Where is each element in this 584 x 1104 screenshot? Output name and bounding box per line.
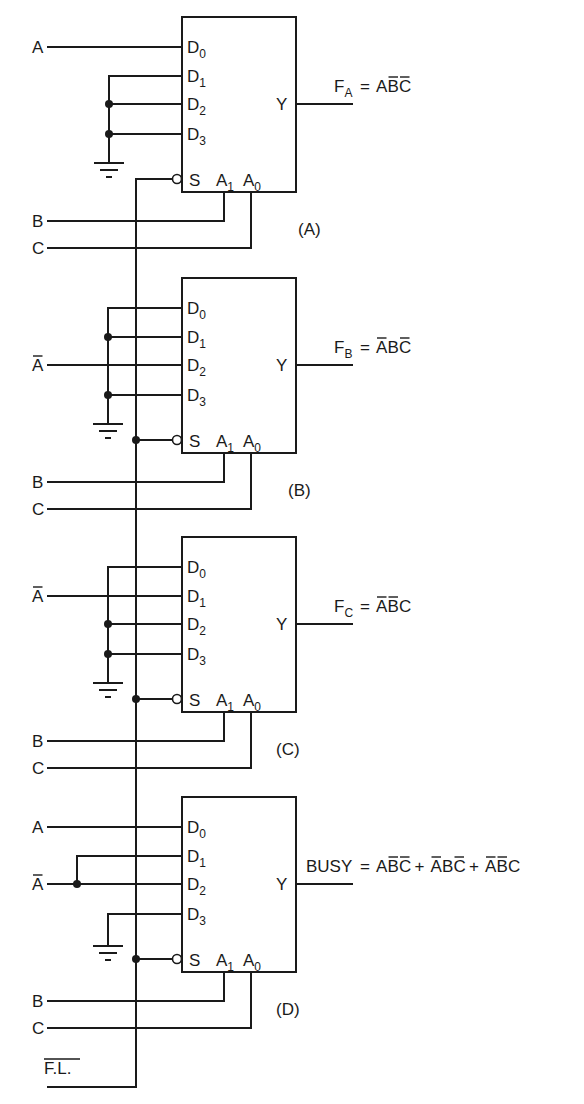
ground-icon (94, 424, 122, 438)
ground-icon (94, 683, 122, 697)
a-bar-label: A (32, 875, 44, 894)
literal-a: A (376, 77, 388, 96)
literal-a: A (485, 857, 497, 876)
junction-dot (105, 130, 113, 138)
mux-block-b: D0D1D2D3YSA1A0BC(B)AFB=ABC (32, 278, 411, 519)
junction-dot (73, 880, 81, 888)
literal-b: B (497, 857, 508, 876)
a-bar-label: A (32, 356, 44, 375)
b-label: B (32, 212, 43, 231)
junction-dot (104, 620, 112, 628)
equals-sign: = (360, 77, 370, 96)
literal-c: C (454, 857, 466, 876)
output-name: FC (334, 597, 353, 620)
output-expression: BUSY=ABC+ABC+ABC (306, 857, 520, 876)
active-low-bubble (173, 955, 182, 964)
literal-b: B (442, 857, 453, 876)
pin-label-y: Y (276, 615, 287, 634)
literal-b: B (388, 857, 399, 876)
junction-dot (104, 333, 112, 341)
equals-sign: = (360, 857, 370, 876)
literal-c: C (399, 597, 411, 616)
ground-icon (94, 946, 122, 960)
pin-label-y: Y (276, 356, 287, 375)
literal-b: B (388, 338, 399, 357)
plus-sign: + (415, 857, 425, 876)
c-label: C (32, 239, 44, 258)
mux-circuit-diagram: F.L.D0D1D2D3YSA1A0BC(A)AFA=ABCD0D1D2D3YS… (0, 0, 584, 1104)
mux-block-a: D0D1D2D3YSA1A0BC(A)AFA=ABC (32, 17, 411, 258)
active-low-bubble (173, 695, 182, 704)
literal-c: C (508, 857, 520, 876)
a-bar-label: A (32, 587, 44, 606)
junction-dot (105, 100, 113, 108)
fl-label: F.L. (44, 1059, 71, 1078)
a-label: A (32, 818, 44, 837)
block-caption: (D) (276, 1000, 300, 1019)
literal-b: B (388, 597, 399, 616)
junction-dot (104, 650, 112, 658)
b-label: B (32, 473, 43, 492)
literal-c: C (399, 338, 411, 357)
literal-c: C (399, 857, 411, 876)
output-expression: FC=ABC (334, 597, 411, 620)
c-label: C (32, 500, 44, 519)
pin-label-s: S (189, 432, 200, 451)
junction-dot (104, 391, 112, 399)
junction-dot (132, 955, 140, 963)
block-caption: (C) (276, 740, 300, 759)
literal-a: A (376, 338, 388, 357)
output-name: FB (334, 338, 352, 361)
output-name: BUSY (306, 857, 352, 876)
output-expression: FA=ABC (334, 77, 411, 100)
b-label: B (32, 992, 43, 1011)
block-caption: (B) (288, 481, 311, 500)
pin-label-s: S (189, 171, 200, 190)
active-low-bubble (173, 175, 182, 184)
ground-icon (95, 163, 123, 177)
block-caption: (A) (298, 220, 321, 239)
junction-dot (132, 695, 140, 703)
b-label: B (32, 732, 43, 751)
mux-block-d: D0D1D2D3YSA1A0BC(D)AABUSY=ABC+ABC+ABC (32, 797, 520, 1038)
literal-a: A (376, 597, 388, 616)
literal-b: B (388, 77, 399, 96)
pin-label-y: Y (276, 875, 287, 894)
c-label: C (32, 1019, 44, 1038)
mux-block-c: D0D1D2D3YSA1A0BC(C)AFC=ABC (32, 537, 411, 778)
c-label: C (32, 759, 44, 778)
pin-label-y: Y (276, 95, 287, 114)
equals-sign: = (360, 338, 370, 357)
output-expression: FB=ABC (334, 338, 411, 361)
literal-c: C (399, 77, 411, 96)
plus-sign: + (469, 857, 479, 876)
pin-label-s: S (189, 951, 200, 970)
junction-dot (132, 436, 140, 444)
active-low-bubble (173, 436, 182, 445)
literal-a: A (376, 857, 388, 876)
a-label: A (32, 38, 44, 57)
output-name: FA (334, 77, 352, 100)
pin-label-s: S (189, 691, 200, 710)
equals-sign: = (360, 597, 370, 616)
literal-a: A (431, 857, 443, 876)
